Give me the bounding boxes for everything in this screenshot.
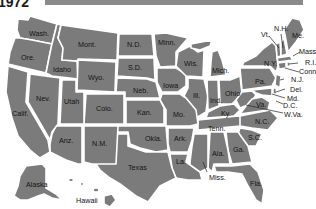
label-ind: Ind. — [210, 96, 222, 105]
state-hawaii-maui[interactable] — [93, 188, 99, 192]
label-wash: Wash. — [29, 29, 49, 38]
label-ri: R.I. — [305, 58, 316, 67]
label-utah: Utah — [64, 97, 79, 106]
label-tenn: Tenn. — [208, 124, 226, 133]
label-ark: Ark. — [174, 134, 187, 143]
label-idaho: Idaho — [53, 65, 71, 74]
label-neb: Neb. — [133, 86, 148, 95]
state-ri[interactable] — [287, 62, 290, 67]
label-del: Del. — [290, 85, 303, 94]
label-calif: Calif. — [12, 109, 28, 118]
label-va: Va. — [256, 100, 266, 109]
label-nh: N.H. — [274, 24, 288, 33]
state-hawaii-oahu[interactable] — [80, 182, 84, 185]
label-me: Me. — [292, 31, 304, 40]
label-nd: N.D. — [127, 40, 141, 49]
state-mass[interactable] — [277, 56, 293, 62]
label-ore: Ore. — [21, 53, 35, 62]
label-sd: S.D. — [128, 63, 142, 72]
state-ind[interactable] — [207, 80, 219, 110]
label-nev: Nev. — [36, 94, 50, 103]
label-colo: Colo. — [96, 104, 113, 113]
state-anz[interactable] — [50, 126, 82, 164]
label-mont: Mont. — [78, 40, 96, 49]
label-vt: Vt. — [261, 30, 270, 39]
label-hawaii: Hawaii — [76, 196, 98, 205]
label-iowa: Iowa — [163, 81, 178, 90]
label-ky: Ky. — [221, 109, 231, 118]
label-nj: N.J. — [291, 75, 304, 84]
state-del[interactable] — [273, 88, 277, 94]
label-ohio: Ohio — [225, 89, 240, 98]
label-nc: N.C. — [255, 117, 269, 126]
label-fla: Fla. — [250, 179, 262, 188]
label-anz: Anz. — [59, 136, 73, 145]
label-ny: N.Y. — [264, 59, 277, 68]
label-la: La. — [176, 157, 186, 166]
label-ill: Ill. — [193, 91, 200, 100]
label-pa: Pa. — [255, 77, 266, 86]
label-minn: Minn. — [158, 38, 176, 47]
state-nj[interactable] — [275, 74, 281, 88]
label-kan: Kan. — [137, 108, 152, 117]
label-mass: Mass. — [299, 47, 316, 56]
label-ala: Ala. — [212, 149, 224, 158]
label-sc: S.C. — [248, 133, 262, 142]
label-nm: N.M. — [92, 139, 107, 148]
label-okla: Okla. — [145, 134, 162, 143]
label-ga: Ga. — [233, 145, 245, 154]
state-mich[interactable] — [191, 40, 212, 50]
label-dc: D.C. — [283, 101, 297, 110]
label-wyo: Wyo. — [88, 73, 104, 82]
label-miss: Miss. — [209, 173, 226, 182]
state-conn[interactable] — [278, 62, 286, 69]
label-wva: W.Va. — [284, 110, 303, 119]
label-mo: Mo. — [173, 110, 185, 119]
state-hawaii-big[interactable] — [104, 194, 116, 207]
label-texas: Texas — [128, 163, 147, 172]
state-hawaii-kauai[interactable] — [69, 178, 74, 182]
label-alaska: Alaska — [26, 180, 48, 189]
us-map: Wash. Ore. Idaho Mont. Wyo. N.D. S.D. Ne… — [0, 0, 316, 209]
label-mich: Mich. — [212, 66, 229, 75]
label-wis: Wis. — [184, 59, 198, 68]
